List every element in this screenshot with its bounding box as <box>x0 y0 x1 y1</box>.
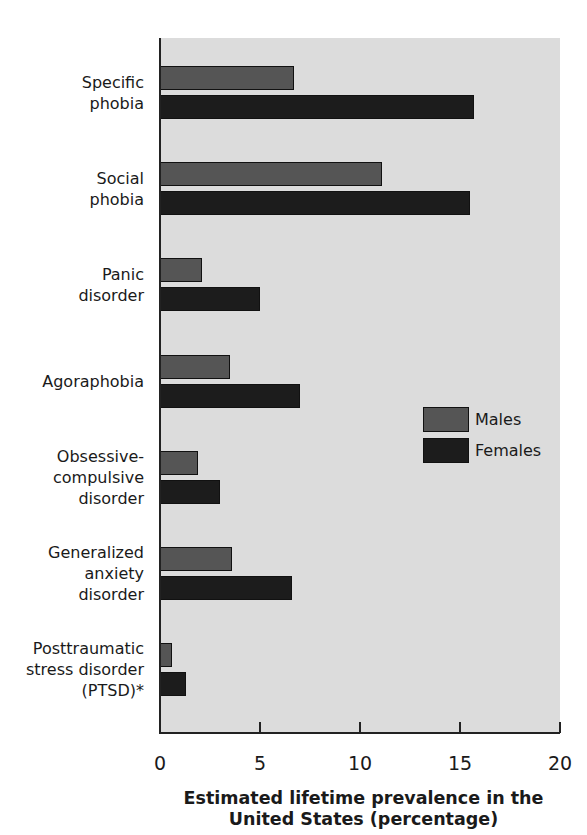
y-axis-line <box>159 38 161 734</box>
bar-males <box>160 643 172 667</box>
category-label-line: Panic <box>78 264 144 285</box>
bar-males <box>160 451 198 475</box>
bar-females <box>160 191 470 215</box>
bar-males <box>160 258 202 282</box>
category-label: Obsessive-compulsivedisorder <box>53 446 144 509</box>
x-tick <box>259 722 261 733</box>
category-label-line: phobia <box>82 93 144 114</box>
category-label-line: compulsive <box>53 467 144 488</box>
x-axis-title-line-2: United States (percentage) <box>140 809 587 830</box>
category-label-line: disorder <box>48 584 144 605</box>
x-tick-label: 5 <box>240 752 280 774</box>
legend-swatch-males <box>423 407 469 432</box>
x-tick <box>359 722 361 733</box>
category-label: Agoraphobia <box>42 371 144 392</box>
bar-males <box>160 547 232 571</box>
bar-females <box>160 672 186 696</box>
category-label-line: Specific <box>82 72 144 93</box>
x-tick-label: 20 <box>540 752 580 774</box>
bar-males <box>160 66 294 90</box>
category-label-line: Generalized <box>48 542 144 563</box>
category-label-line: disorder <box>53 488 144 509</box>
category-label-line: phobia <box>90 189 145 210</box>
x-tick-label: 0 <box>140 752 180 774</box>
x-tick <box>559 722 561 733</box>
bar-females <box>160 480 220 504</box>
bar-females <box>160 95 474 119</box>
bar-males <box>160 162 382 186</box>
x-axis-title-line-1: Estimated lifetime prevalence in the <box>140 788 587 809</box>
bar-females <box>160 287 260 311</box>
bar-males <box>160 355 230 379</box>
category-label-line: stress disorder <box>26 659 144 680</box>
bar-females <box>160 384 300 408</box>
x-tick-label: 15 <box>440 752 480 774</box>
category-label-line: Agoraphobia <box>42 371 144 392</box>
category-label-line: (PTSD)* <box>26 680 144 701</box>
category-label-line: Posttraumatic <box>26 638 144 659</box>
x-axis-title: Estimated lifetime prevalence in the Uni… <box>140 788 587 830</box>
x-tick-label: 10 <box>340 752 380 774</box>
category-label-line: Social <box>90 168 145 189</box>
legend-swatch-females <box>423 438 469 463</box>
category-label-line: disorder <box>78 285 144 306</box>
category-label: Specificphobia <box>82 72 144 114</box>
bar-females <box>160 576 292 600</box>
legend-label-males: Males <box>475 407 521 432</box>
category-label-line: anxiety <box>48 563 144 584</box>
category-label: Generalizedanxietydisorder <box>48 542 144 605</box>
category-label: Posttraumaticstress disorder(PTSD)* <box>26 638 144 701</box>
category-label: Socialphobia <box>90 168 145 210</box>
category-label-line: Obsessive- <box>53 446 144 467</box>
x-tick <box>459 722 461 733</box>
category-label: Panicdisorder <box>78 264 144 306</box>
legend-label-females: Females <box>475 438 541 463</box>
